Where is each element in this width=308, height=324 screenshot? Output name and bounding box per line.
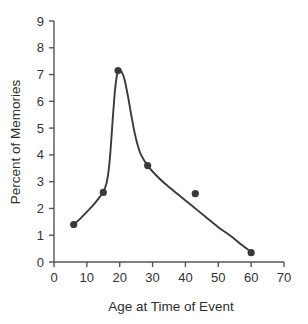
x-tick-label: 70 xyxy=(277,270,291,285)
x-tick-label: 10 xyxy=(80,270,94,285)
data-point xyxy=(192,190,199,197)
data-point xyxy=(144,162,151,169)
y-tick-label: 3 xyxy=(37,174,44,189)
y-tick-label: 5 xyxy=(37,121,44,136)
y-tick-label: 9 xyxy=(37,14,44,29)
y-tick-label: 0 xyxy=(37,255,44,270)
data-point xyxy=(114,67,121,74)
y-tick-label: 7 xyxy=(37,67,44,82)
x-axis-title: Age at Time of Event xyxy=(108,299,234,314)
x-tick-label: 0 xyxy=(50,270,57,285)
y-tick-label: 1 xyxy=(37,228,44,243)
x-tick-label: 20 xyxy=(112,270,126,285)
x-tick-label: 40 xyxy=(178,270,192,285)
data-point xyxy=(248,249,255,256)
x-tick-label: 30 xyxy=(145,270,159,285)
y-axis-title: Percent of Memories xyxy=(8,79,23,204)
chart-container: 0123456789 010203040506070 Age at Time o… xyxy=(0,0,308,324)
data-point xyxy=(70,221,77,228)
y-tick-label: 2 xyxy=(37,201,44,216)
data-point xyxy=(100,189,107,196)
x-tick-label: 60 xyxy=(244,270,258,285)
y-tick-label: 6 xyxy=(37,94,44,109)
x-tick-label: 50 xyxy=(211,270,225,285)
y-tick-label: 4 xyxy=(37,147,44,162)
y-tick-label: 8 xyxy=(37,40,44,55)
scatter-plot: 0123456789 010203040506070 Age at Time o… xyxy=(0,0,308,324)
